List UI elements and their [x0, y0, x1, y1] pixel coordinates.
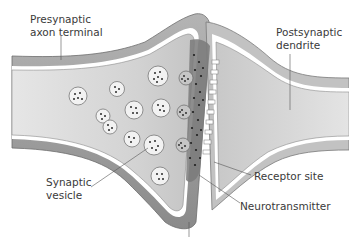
label-receptor-site: Receptor site: [254, 170, 323, 183]
label-presynaptic-axon-terminal: Presynaptic axon terminal: [30, 13, 103, 38]
label-line: Receptor site: [254, 170, 323, 183]
label-line: dendrite: [276, 39, 342, 52]
label-line: vesicle: [46, 189, 91, 202]
label-line: axon terminal: [30, 26, 103, 39]
label-line: Neurotransmitter: [240, 200, 331, 213]
label-neurotransmitter: Neurotransmitter: [240, 200, 331, 213]
label-line: Synaptic: [46, 176, 91, 189]
label-line: Postsynaptic: [276, 26, 342, 39]
label-synaptic-vesicle: Synaptic vesicle: [46, 176, 91, 201]
label-line: Presynaptic: [30, 13, 103, 26]
label-postsynaptic-dendrite: Postsynaptic dendrite: [276, 26, 342, 51]
